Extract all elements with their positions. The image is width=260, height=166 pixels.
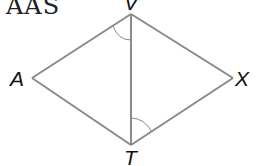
kite-diagram: AAS V A X T (0, 0, 260, 166)
vertex-label-x: X (234, 67, 250, 90)
segment-va (32, 14, 131, 78)
angle-mark-t (131, 118, 152, 132)
vertex-label-a: A (8, 67, 24, 90)
diagram-title: AAS (5, 0, 60, 20)
angle-mark-v (113, 26, 131, 40)
segment-at (32, 78, 131, 145)
figure-lines (32, 14, 233, 145)
segment-vx (131, 14, 233, 78)
vertex-label-t: T (124, 146, 139, 166)
vertex-label-v: V (124, 0, 140, 14)
segment-xt (131, 78, 233, 145)
